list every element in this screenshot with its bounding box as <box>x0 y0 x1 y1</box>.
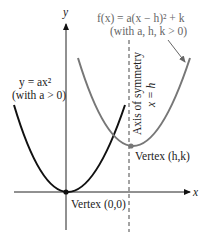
base-condition-label: (with a > 0) <box>12 89 66 102</box>
shifted-condition-label: (with a, h, k > 0) <box>110 25 187 38</box>
vertex-origin-dot <box>63 189 68 194</box>
vertex-hk-label: Vertex (h,k) <box>135 150 190 163</box>
axis-of-symmetry-title: Axis of symmetry <box>131 52 144 135</box>
parabola-diagram: y x y = ax² (with a > 0) f(x) = a(x − h)… <box>0 0 209 239</box>
vertex-origin-label: Vertex (0,0) <box>71 198 126 211</box>
parabola-base <box>14 105 125 192</box>
shifted-equation-label: f(x) = a(x − h)² + k <box>97 12 185 25</box>
axis-of-symmetry-equation: x = h <box>145 82 157 108</box>
x-axis-label: x <box>192 186 199 198</box>
label-pointer-arrow <box>168 40 185 62</box>
base-equation-label: y = ax² <box>19 76 52 89</box>
y-axis-label: y <box>62 6 69 19</box>
vertex-hk-dot <box>128 143 133 148</box>
